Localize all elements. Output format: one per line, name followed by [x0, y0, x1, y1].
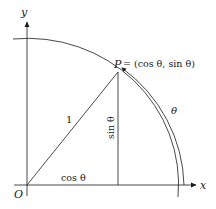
unit-circle-diagram: y x O P = (cos θ, sin θ) 1 cos θ sin θ θ	[0, 0, 216, 209]
point-definition: = (cos θ, sin θ)	[123, 58, 195, 69]
y-axis-label: y	[20, 6, 28, 19]
cos-label: cos θ	[61, 172, 86, 183]
sin-label: sin θ	[105, 116, 116, 139]
radius-label: 1	[66, 114, 72, 125]
angle-arc	[122, 68, 184, 185]
x-axis-label: x	[200, 179, 207, 192]
angle-label: θ	[171, 105, 177, 116]
point-label: P	[113, 58, 122, 71]
origin-label: O	[14, 188, 23, 201]
